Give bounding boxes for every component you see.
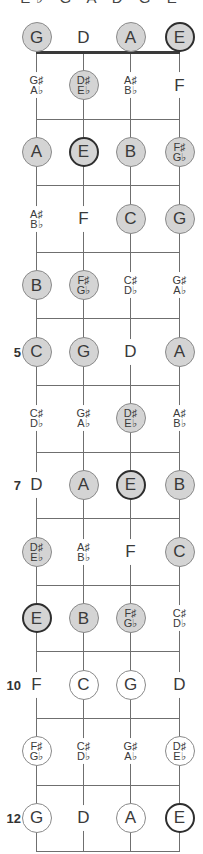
nut [36,51,180,54]
note-label: D [167,672,193,698]
note-label: D [71,805,97,831]
enharmonic-pair: G♯A♭ [76,408,90,428]
enharmonic-pair: C♯D♭ [173,608,186,628]
flat-name: B♭ [77,552,89,562]
note-name: B [31,277,42,294]
note-name: E [125,476,136,493]
fretboard: 571012GDAEG♯A♭D♯E♭A♯B♭FAEBF♯G♭A♯B♭FCGBF♯… [0,0,203,854]
note-name: G [30,809,43,826]
scale-note-marker: F♯G♭ [116,603,146,633]
enharmonic-pair: F♯G♭ [124,608,138,628]
enharmonic-pair: A♯B♭ [173,408,186,428]
note-label: C♯D♭ [71,738,97,764]
note-name: F [78,210,88,227]
flat-name: A♭ [30,85,42,95]
flat-name: A♭ [173,285,185,295]
scale-note-marker: A [165,337,195,367]
note-label: F [24,672,50,698]
note-name: F [31,676,41,693]
note-name: A [125,29,136,46]
enharmonic-pair: G♯A♭ [123,741,137,761]
flat-name: G♭ [173,152,187,162]
note-label: G♯A♭ [167,272,193,298]
note-name: B [174,476,185,493]
note-label: C♯D♭ [167,605,193,631]
scale-note-marker: B [165,470,195,500]
scale-note-marker: C [22,337,52,367]
enharmonic-pair: D♯E♭ [124,408,137,428]
note-name: E [78,143,89,160]
note-label: A♯B♭ [167,405,193,431]
scale-note-marker: D♯E♭ [69,70,99,100]
fret-number: 7 [5,477,21,492]
note-name: A [31,143,42,160]
scale-note-marker: G [116,670,146,700]
scale-note-marker: F♯G♭ [22,736,52,766]
enharmonic-pair: C♯D♭ [77,741,90,761]
enharmonic-pair: F♯G♭ [77,275,91,295]
scale-note-marker: A [69,470,99,500]
enharmonic-pair: F♯G♭ [30,741,44,761]
fret-line [36,185,180,186]
fret-number: 12 [5,810,21,825]
flat-name: G♭ [124,618,138,628]
fret-number: 5 [5,344,21,359]
flat-name: D♭ [30,418,43,428]
enharmonic-pair: C♯D♭ [124,275,137,295]
scale-note-marker: G [22,803,52,833]
enharmonic-pair: D♯E♭ [77,75,90,95]
enharmonic-pair: A♯B♭ [77,542,90,562]
note-name: G [173,210,186,227]
note-label: C♯D♭ [24,405,50,431]
note-name: D [124,343,136,360]
note-label: C♯D♭ [118,272,144,298]
fret-number: 10 [5,677,21,692]
enharmonic-pair: D♯E♭ [173,741,186,761]
note-name: C [173,543,185,560]
note-label: F [167,72,193,98]
note-name: E [174,809,185,826]
scale-note-marker: C [165,537,195,567]
flat-name: E♭ [77,85,89,95]
flat-name: E♭ [173,751,185,761]
fret-line [36,518,180,519]
note-name: C [30,343,42,360]
scale-note-marker: F♯G♭ [69,270,99,300]
enharmonic-pair: A♯B♭ [124,75,137,95]
note-label: G♯A♭ [71,405,97,431]
enharmonic-pair: C♯D♭ [30,408,43,428]
note-name: C [77,676,89,693]
flat-name: G♭ [30,751,44,761]
enharmonic-pair: G♯A♭ [29,75,43,95]
scale-note-marker: B [116,137,146,167]
root-note-marker: E [22,603,52,633]
flat-name: E♭ [30,552,42,562]
enharmonic-pair: F♯G♭ [173,142,187,162]
note-name: A [125,809,136,826]
scale-note-marker: B [22,270,52,300]
note-label: F [71,206,97,232]
fret-line [36,318,180,319]
note-name: E [31,610,42,627]
note-label: D [118,339,144,365]
note-label: G♯A♭ [118,738,144,764]
scale-note-marker: G [165,204,195,234]
note-name: D [30,476,42,493]
fret-line [36,718,180,719]
root-note-marker: E [69,137,99,167]
note-name: G [77,343,90,360]
fret-line [36,585,180,586]
fret-line [36,119,180,120]
flat-name: A♭ [77,418,89,428]
scale-note-marker: D♯E♭ [165,736,195,766]
scale-note-marker: F♯G♭ [165,137,195,167]
note-name: D [77,29,89,46]
flat-name: D♭ [124,285,137,295]
note-label: A♯B♭ [24,206,50,232]
note-name: C [124,210,136,227]
fret-line [36,252,180,253]
scale-note-marker: C [116,204,146,234]
flat-name: E♭ [124,418,136,428]
scale-note-marker: A [116,803,146,833]
scale-note-marker: G [69,337,99,367]
